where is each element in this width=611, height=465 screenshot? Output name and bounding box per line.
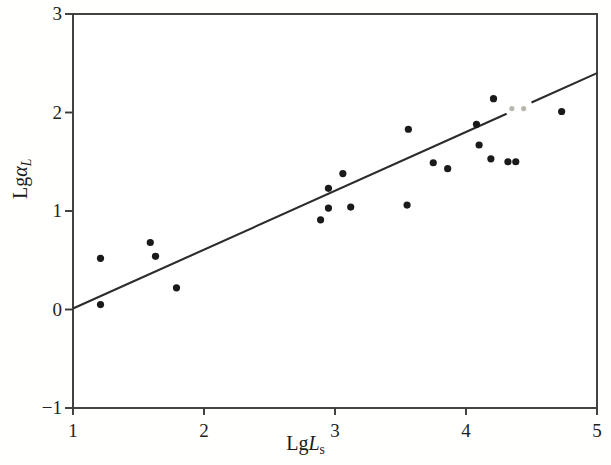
data-point — [444, 165, 451, 172]
y-tick-label-2: 2 — [20, 102, 62, 124]
data-point — [405, 126, 412, 133]
data-point — [476, 141, 483, 148]
data-point — [317, 216, 324, 223]
data-point — [173, 284, 180, 291]
plot-frame — [73, 14, 597, 408]
data-point — [339, 170, 346, 177]
y-tick-label-−1: −1 — [20, 397, 62, 419]
y-tick-label-0: 0 — [20, 299, 62, 321]
data-point — [473, 121, 480, 128]
data-point — [325, 185, 332, 192]
data-point — [512, 158, 519, 165]
y-axis-title: LgαL — [9, 139, 35, 219]
x-axis-ticks — [73, 408, 597, 415]
scatter-plot-figure: 12345 3210−1 LgLs LgαL — [0, 0, 611, 465]
y-axis-ticks — [65, 14, 73, 408]
faded-artifact-dot — [509, 106, 514, 111]
plot-canvas — [0, 0, 611, 465]
x-axis-title-text: LgLs — [286, 432, 325, 454]
axes — [65, 14, 597, 415]
data-point — [97, 255, 104, 262]
data-point — [347, 203, 354, 210]
data-point — [504, 158, 511, 165]
y-tick-label-3: 3 — [20, 3, 62, 25]
data-point — [147, 239, 154, 246]
x-axis-title: LgLs — [0, 432, 611, 458]
data-point — [430, 159, 437, 166]
faded-artifact-dot — [521, 106, 526, 111]
data-point — [152, 253, 159, 260]
data-point — [558, 108, 565, 115]
data-point — [403, 201, 410, 208]
data-point — [325, 204, 332, 211]
data-point — [97, 301, 104, 308]
y-axis-title-text: LgαL — [9, 159, 31, 199]
data-point — [487, 155, 494, 162]
data-point — [490, 95, 497, 102]
